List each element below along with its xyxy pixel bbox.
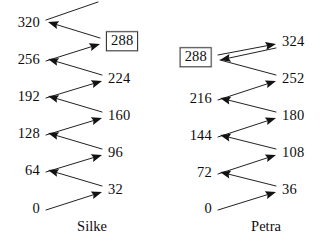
- petra-left-value-144: 144: [190, 128, 212, 143]
- petra-arrow-shaft: [218, 46, 268, 55]
- silke-arrow-shaft: [56, 61, 102, 75]
- diagram-silke: 3202561921286402882241609632 Silke: [0, 0, 164, 248]
- petra-right-value-252: 252: [282, 71, 304, 86]
- silke-left-value-64: 64: [25, 163, 40, 178]
- diagram-canvas: 3202561921286402882241609632 Silke 28821…: [0, 0, 328, 248]
- petra-left-value-288: 288: [180, 47, 212, 67]
- petra-left-value-72: 72: [197, 165, 212, 180]
- silke-right-value-32: 32: [108, 182, 123, 197]
- petra-right-value-324: 324: [282, 34, 304, 49]
- petra-arrow-shaft: [228, 174, 276, 186]
- silke-left-value-256: 256: [18, 52, 40, 67]
- diagram-petra: 28821614472032425218010836 Petra: [164, 0, 328, 248]
- silke-caption: Silke: [77, 219, 107, 234]
- silke-right-value-288: 288: [106, 31, 138, 51]
- silke-right-value-96: 96: [108, 145, 123, 160]
- petra-right-value-108: 108: [282, 145, 304, 160]
- petra-arrow-shaft: [220, 60, 276, 75]
- silke-arrow-shaft: [46, 195, 94, 210]
- silke-right-value-160: 160: [108, 108, 130, 123]
- petra-arrow-shaft: [228, 48, 276, 58]
- petra-left-value-0: 0: [205, 201, 212, 216]
- silke-left-value-192: 192: [18, 89, 40, 104]
- petra-arrow-shaft: [228, 100, 276, 112]
- silke-left-value-320: 320: [18, 15, 40, 30]
- petra-left-value-216: 216: [190, 91, 212, 106]
- petra-arrow-shaft: [228, 137, 276, 149]
- petra-arrow-shaft: [218, 195, 268, 210]
- silke-left-value-128: 128: [18, 126, 40, 141]
- petra-right-value-180: 180: [282, 108, 304, 123]
- petra-right-value-36: 36: [282, 182, 297, 197]
- silke-arrow-shaft: [56, 25, 100, 38]
- petra-caption: Petra: [251, 219, 281, 234]
- silke-arrow-shaft: [56, 98, 102, 112]
- silke-arrow-shaft: [56, 172, 102, 186]
- silke-left-value-0: 0: [33, 201, 40, 216]
- silke-right-value-224: 224: [108, 71, 130, 86]
- silke-arrow-shaft: [56, 135, 102, 149]
- silke-arrow-shaft: [46, 2, 98, 20]
